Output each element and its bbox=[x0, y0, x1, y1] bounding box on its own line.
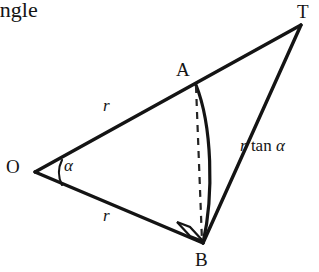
arc-angle-alpha-at-O bbox=[59, 160, 62, 185]
angle-label-alpha: α bbox=[64, 157, 73, 174]
dashed-segment-A-to-B bbox=[196, 86, 202, 241]
r-tan-alpha-tan-part: tan bbox=[251, 136, 272, 155]
vertex-label-O: O bbox=[6, 157, 20, 176]
segment-label-radius-lower: r bbox=[103, 207, 110, 224]
segment-label-radius-upper: r bbox=[103, 97, 110, 114]
segment-T-to-B bbox=[203, 25, 301, 243]
caption-text-fragment: angle bbox=[0, 0, 38, 21]
segment-label-r-tan-alpha: r tan α bbox=[240, 137, 285, 154]
vertex-label-T: T bbox=[297, 2, 309, 21]
geometry-figure: angle T A O B r r α r tan α bbox=[0, 0, 319, 272]
r-tan-alpha-r-part: r bbox=[240, 136, 247, 155]
vertex-label-B: B bbox=[195, 250, 208, 269]
vertex-label-A: A bbox=[176, 60, 190, 79]
r-tan-alpha-alpha-part: α bbox=[276, 136, 285, 155]
